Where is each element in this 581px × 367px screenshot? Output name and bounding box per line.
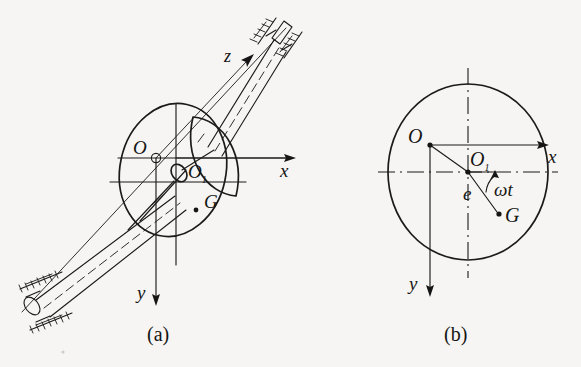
label-O-a: O: [133, 137, 147, 158]
panel-a: O O1 G x y z (a): [19, 18, 302, 346]
label-omega-t-b: ωt: [494, 179, 513, 200]
label-O1-a: O1: [188, 161, 207, 185]
axis-y-b: [426, 145, 434, 297]
axis-x-b: [430, 141, 549, 149]
label-G-a: G: [204, 191, 218, 212]
disc-rim: [191, 117, 238, 196]
engineering-figure: O O1 G x y z (a): [0, 0, 581, 367]
label-y-b: y: [407, 273, 418, 294]
point-G-marker-a: [194, 208, 199, 213]
disc-face: [107, 93, 239, 246]
axis-z-a: [156, 54, 254, 158]
scan-speck: [61, 350, 64, 353]
shaft-lower-left: [36, 196, 186, 317]
point-O-marker-b: [427, 142, 432, 147]
label-O-b: O: [408, 125, 422, 147]
caption-a: (a): [147, 323, 169, 346]
shaft-axis-line: [22, 28, 286, 312]
label-x-b: x: [547, 146, 557, 167]
disc-centerlines: [110, 104, 290, 265]
label-O1-b: O1: [470, 148, 489, 173]
panel-b: O O1 e ωt G x y (b): [378, 68, 558, 346]
label-G-b: G: [505, 204, 520, 226]
point-G-marker-b: [496, 211, 501, 216]
label-x-a: x: [279, 160, 289, 181]
caption-b: (b): [444, 323, 467, 346]
label-y-a: y: [135, 282, 146, 303]
point-O1-marker-b: [465, 169, 470, 174]
label-e-b: e: [463, 183, 471, 204]
label-z-a: z: [223, 46, 231, 66]
line-O-to-O1-b: [430, 145, 468, 172]
bearing-lower-left: [19, 271, 72, 333]
figure-page: O O1 G x y z (a): [0, 0, 581, 367]
